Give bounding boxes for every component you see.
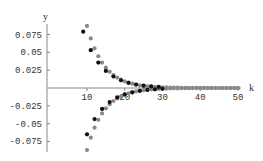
data-point xyxy=(100,107,104,111)
y-tick-label: 0.025 xyxy=(15,66,42,76)
data-point xyxy=(142,88,146,92)
data-point xyxy=(164,86,168,90)
data-point xyxy=(130,90,134,94)
data-point xyxy=(228,86,232,90)
data-point xyxy=(172,86,176,90)
data-point xyxy=(123,79,127,83)
data-point xyxy=(221,86,225,90)
data-point xyxy=(206,86,210,90)
data-point xyxy=(134,89,138,93)
data-point xyxy=(202,86,206,90)
data-point xyxy=(115,95,119,99)
data-point xyxy=(123,92,127,96)
data-point xyxy=(168,86,172,90)
data-point xyxy=(92,126,96,130)
y-tick-label: -0.075 xyxy=(10,137,42,147)
data-point xyxy=(194,86,198,90)
data-point xyxy=(225,86,229,90)
data-point xyxy=(96,60,100,64)
data-point xyxy=(96,118,100,122)
x-tick-label: 40 xyxy=(195,93,206,103)
data-point xyxy=(213,86,217,90)
data-point xyxy=(187,86,191,90)
data-point xyxy=(92,46,96,50)
data-point xyxy=(198,86,202,90)
data-point xyxy=(142,84,146,88)
data-point xyxy=(126,91,130,95)
data-point xyxy=(81,30,85,34)
data-point xyxy=(111,99,115,103)
data-point xyxy=(183,86,187,90)
data-point xyxy=(145,88,149,92)
y-axis-label: y xyxy=(43,11,48,22)
series-envelope-upper xyxy=(85,24,240,90)
data-point xyxy=(236,86,240,90)
data-point xyxy=(157,85,161,89)
data-point xyxy=(100,61,104,65)
axes: 1020304050 0.0750.050.025-0.025-0.05-0.0… xyxy=(10,11,254,152)
data-point xyxy=(100,111,104,115)
data-point xyxy=(108,100,112,104)
data-point xyxy=(126,81,130,85)
data-point xyxy=(119,94,123,98)
data-point xyxy=(138,83,142,87)
data-point xyxy=(217,86,221,90)
data-point xyxy=(92,117,96,121)
x-axis-label: k xyxy=(249,82,254,93)
data-point xyxy=(89,36,93,40)
data-point xyxy=(130,82,134,86)
data-point xyxy=(96,54,100,58)
data-point xyxy=(89,48,93,52)
data-point xyxy=(85,132,89,136)
data-point xyxy=(104,69,108,73)
data-point xyxy=(115,75,119,79)
y-tick-label: -0.05 xyxy=(15,120,42,130)
data-point xyxy=(85,148,89,152)
data-point xyxy=(232,86,236,90)
data-point xyxy=(153,87,157,91)
data-point xyxy=(176,86,180,90)
data-point xyxy=(119,78,123,82)
series-alternating-sequence xyxy=(81,30,164,137)
data-point xyxy=(108,70,112,74)
data-point xyxy=(191,86,195,90)
y-tick-label: 0.075 xyxy=(15,31,42,41)
x-tick-label: 50 xyxy=(233,93,244,103)
scatter-plot: 1020304050 0.0750.050.025-0.025-0.05-0.0… xyxy=(0,0,263,161)
data-point xyxy=(134,82,138,86)
x-tick-label: 30 xyxy=(157,93,168,103)
data-point xyxy=(179,86,183,90)
x-tick-label: 10 xyxy=(82,93,93,103)
y-tick-label: -0.025 xyxy=(10,102,42,112)
y-tick-label: 0.05 xyxy=(20,48,42,58)
data-point xyxy=(104,106,108,110)
data-point xyxy=(89,136,93,140)
data-point xyxy=(149,84,153,88)
data-point xyxy=(85,24,89,28)
data-point xyxy=(160,87,164,91)
data-point xyxy=(111,74,115,78)
data-point xyxy=(209,86,213,90)
data-point xyxy=(138,89,142,93)
y-ticks: 0.0750.050.025-0.025-0.05-0.075 xyxy=(10,31,50,148)
